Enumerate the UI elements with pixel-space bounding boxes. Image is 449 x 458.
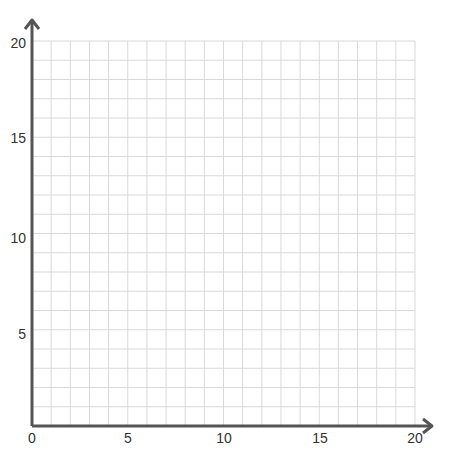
x-tick-5: 5 <box>124 430 132 446</box>
y-tick-20: 20 <box>10 35 26 51</box>
y-tick-labels: 5 10 15 20 <box>10 35 26 342</box>
y-tick-15: 15 <box>10 130 26 146</box>
grid-lines <box>32 41 415 426</box>
x-tick-0: 0 <box>28 430 36 446</box>
x-tick-20: 20 <box>407 430 423 446</box>
y-axis <box>25 20 39 426</box>
x-axis <box>32 419 432 433</box>
coordinate-grid-chart: 0 5 10 15 20 5 10 15 20 <box>0 0 449 458</box>
x-tick-labels: 0 5 10 15 20 <box>28 430 423 446</box>
y-tick-5: 5 <box>18 326 26 342</box>
y-tick-10: 10 <box>10 230 26 246</box>
x-tick-15: 15 <box>312 430 328 446</box>
x-tick-10: 10 <box>216 430 232 446</box>
